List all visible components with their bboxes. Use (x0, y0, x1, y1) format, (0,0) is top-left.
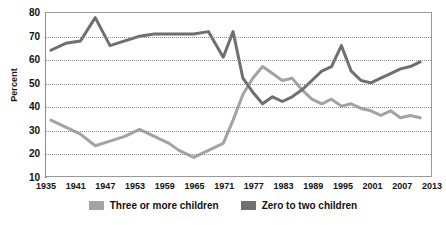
gridline (46, 154, 431, 155)
x-axis-tick: 1995 (333, 181, 353, 191)
legend-label: Three or more children (110, 200, 219, 211)
gridline (46, 107, 431, 108)
x-axis-tick: 1953 (125, 181, 145, 191)
gridline (46, 60, 431, 61)
x-axis-tick-labels: 1935194119471953195919651971197719831989… (0, 181, 446, 197)
line-chart: Percent 8070605040302010 193519411947195… (0, 0, 446, 225)
x-axis-tick: 1941 (66, 181, 86, 191)
x-axis-tick: 1977 (244, 181, 264, 191)
x-axis-tick: 1965 (184, 181, 204, 191)
x-axis-tick: 1947 (95, 181, 115, 191)
y-axis-tick: 20 (14, 148, 40, 159)
x-axis-tick: 2007 (392, 181, 412, 191)
y-axis-tick: 70 (14, 30, 40, 41)
x-axis-tick: 1983 (274, 181, 294, 191)
x-axis-tick: 1935 (36, 181, 56, 191)
legend-item[interactable]: Zero to two children (241, 200, 358, 211)
chart-legend: Three or more childrenZero to two childr… (0, 200, 446, 211)
y-axis-tick: 80 (14, 7, 40, 18)
x-axis-tick: 1989 (303, 181, 323, 191)
legend-label: Zero to two children (262, 200, 358, 211)
y-axis-tick: 40 (14, 101, 40, 112)
plot-area (46, 12, 432, 177)
x-axis-tick: 2013 (422, 181, 442, 191)
y-axis-tick: 60 (14, 54, 40, 65)
legend-item[interactable]: Three or more children (89, 200, 219, 211)
x-axis-tick: 2001 (363, 181, 383, 191)
gridline (46, 37, 431, 38)
gridline (46, 84, 431, 85)
x-axis-tick: 1971 (214, 181, 234, 191)
y-axis-tick: 50 (14, 77, 40, 88)
legend-swatch-icon (241, 201, 256, 210)
gridline (46, 131, 431, 132)
y-axis-tick: 30 (14, 124, 40, 135)
legend-swatch-icon (89, 201, 104, 210)
x-axis-tick: 1959 (155, 181, 175, 191)
